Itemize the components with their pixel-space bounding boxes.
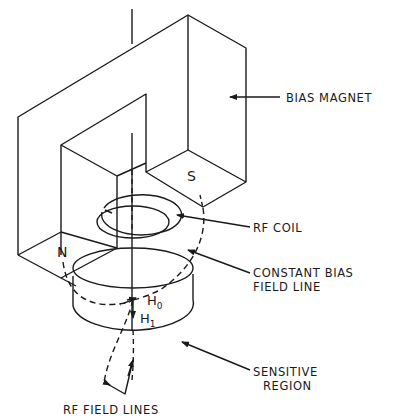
label-rf-field-lines: RF FIELD LINES <box>63 403 159 417</box>
rf-field-line-left <box>104 300 133 382</box>
label-constant-bias-1: CONSTANT BIAS <box>253 266 354 280</box>
label-sensitive-2: REGION <box>263 379 312 393</box>
south-pole-label: S <box>187 168 196 184</box>
leader-sensitive-region <box>182 342 250 370</box>
leader-rf-field-lines <box>104 360 133 394</box>
label-bias-magnet: BIAS MAGNET <box>286 91 372 105</box>
h1-symbol: H1 <box>140 311 156 329</box>
north-pole-label: N <box>57 244 67 260</box>
leader-constant-bias <box>188 250 250 273</box>
label-rf-coil: RF COIL <box>253 221 302 235</box>
magnet-diagram <box>0 0 395 420</box>
label-sensitive-1: SENSITIVE <box>253 365 318 379</box>
h0-symbol: H0 <box>147 293 163 311</box>
leader-rf-coil <box>177 215 250 227</box>
rf-coil <box>97 195 182 238</box>
label-constant-bias-2: FIELD LINE <box>253 280 321 294</box>
